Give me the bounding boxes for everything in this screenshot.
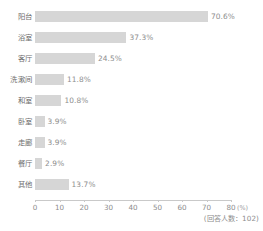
category-label: 餐厅: [0, 158, 32, 169]
x-axis-tick: [109, 200, 110, 202]
bar: [35, 32, 126, 43]
category-label: 客厅: [0, 53, 32, 64]
x-axis-tick-label: 10: [55, 203, 64, 212]
x-axis-tick-label: 0: [33, 203, 38, 212]
x-axis-tick-label: 70: [202, 203, 211, 212]
x-axis-tick-label: 50: [153, 203, 162, 212]
horizontal-bar-chart: 阳台 70.6% 浴室 37.3% 客厅 24.5% 洗漱间 1: [0, 0, 263, 231]
x-axis-tick: [182, 200, 183, 202]
bar-track: 3.9%: [35, 137, 263, 148]
bar-track: 10.8%: [35, 95, 263, 106]
category-label: 洗漱间: [0, 74, 32, 85]
x-axis-tick-label: 30: [104, 203, 113, 212]
x-axis-tick: [84, 200, 85, 202]
bar-value-label: 2.9%: [45, 158, 64, 169]
bar-track: 11.8%: [35, 74, 263, 85]
chart-row: 客厅 24.5%: [0, 53, 263, 74]
chart-row: 走廊 3.9%: [0, 137, 263, 158]
bar: [35, 137, 45, 148]
x-axis-tick: [231, 200, 232, 202]
category-label: 和室: [0, 95, 32, 106]
x-axis-tick: [158, 200, 159, 202]
x-axis-tick-label: 60: [177, 203, 186, 212]
bar-value-label: 11.8%: [67, 74, 91, 85]
chart-plot-area: 阳台 70.6% 浴室 37.3% 客厅 24.5% 洗漱间 1: [0, 11, 263, 200]
chart-row: 和室 10.8%: [0, 95, 263, 116]
category-label: 卧室: [0, 116, 32, 127]
bar: [35, 95, 61, 106]
bar: [35, 179, 69, 190]
chart-row: 餐厅 2.9%: [0, 158, 263, 179]
bar-value-label: 3.9%: [48, 137, 67, 148]
chart-row: 其他 13.7%: [0, 179, 263, 200]
x-axis-tick: [35, 200, 36, 202]
category-label: 阳台: [0, 11, 32, 22]
bar-value-label: 3.9%: [48, 116, 67, 127]
bar: [35, 116, 45, 127]
bar-track: 13.7%: [35, 179, 263, 190]
chart-row: 阳台 70.6%: [0, 11, 263, 32]
category-label: 浴室: [0, 32, 32, 43]
bar-value-label: 13.7%: [72, 179, 96, 190]
bar-track: 37.3%: [35, 32, 263, 43]
x-axis-tick: [207, 200, 208, 202]
bar-value-label: 70.6%: [211, 11, 235, 22]
x-axis-tick-label: 40: [128, 203, 137, 212]
bar: [35, 11, 208, 22]
x-axis-unit-label: (%): [237, 204, 248, 213]
bar-track: 3.9%: [35, 116, 263, 127]
bar: [35, 53, 95, 64]
respondent-count-note: (回答人数：102): [204, 214, 259, 224]
x-axis-tick-label: 20: [79, 203, 88, 212]
bar-track: 70.6%: [35, 11, 263, 22]
chart-row: 卧室 3.9%: [0, 116, 263, 137]
chart-row: 洗漱间 11.8%: [0, 74, 263, 95]
chart-row: 浴室 37.3%: [0, 32, 263, 53]
bar-value-label: 37.3%: [129, 32, 153, 43]
x-axis-tick: [133, 200, 134, 202]
category-label: 其他: [0, 179, 32, 190]
bar-track: 2.9%: [35, 158, 263, 169]
bar: [35, 74, 64, 85]
bar-value-label: 10.8%: [64, 95, 88, 106]
bar: [35, 158, 42, 169]
bar-track: 24.5%: [35, 53, 263, 64]
bar-value-label: 24.5%: [98, 53, 122, 64]
category-label: 走廊: [0, 137, 32, 148]
x-axis-tick-label: 80: [226, 203, 235, 212]
x-axis-tick: [60, 200, 61, 202]
